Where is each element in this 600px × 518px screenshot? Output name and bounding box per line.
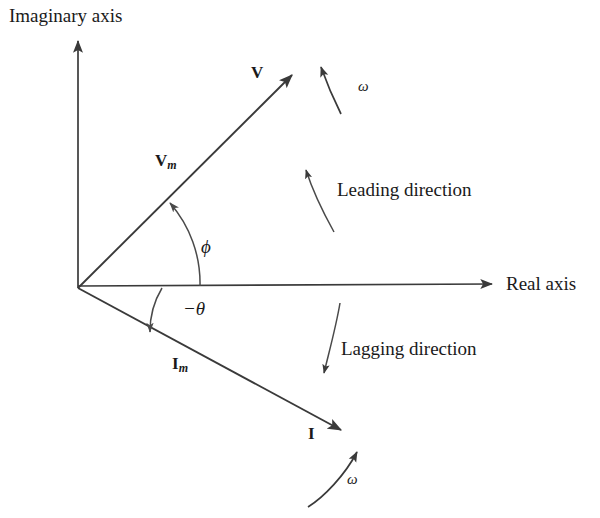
omega-bottom-label: ω [347, 472, 358, 487]
phi-angle-arc [170, 203, 200, 286]
negative-theta-angle-label: −θ [183, 299, 205, 318]
current-phasor-tip-label: I [308, 425, 315, 442]
voltage-phasor-line [78, 75, 292, 288]
voltage-magnitude-label: Vm [155, 152, 177, 171]
phi-angle-label: ϕ [201, 237, 211, 256]
imaginary-axis-label: Imaginary axis [9, 6, 122, 25]
phasor-diagram-canvas [0, 0, 600, 518]
omega-top-label: ω [358, 79, 369, 94]
voltage-magnitude-symbol: V [155, 151, 167, 170]
real-axis-label: Real axis [506, 274, 576, 293]
lagging-direction-label: Lagging direction [341, 339, 477, 358]
phasor-diagram: Imaginary axis Real axis V Vm I Im ϕ −θ … [0, 0, 600, 518]
current-magnitude-subscript: m [179, 361, 188, 375]
omega-top-arrow [321, 67, 341, 114]
leading-direction-label: Leading direction [337, 180, 472, 199]
lagging-direction-arrow [324, 303, 340, 373]
voltage-magnitude-subscript: m [167, 158, 176, 172]
negative-theta-angle-arc [150, 288, 162, 332]
current-magnitude-label: Im [172, 355, 188, 374]
current-phasor-line [78, 288, 341, 430]
current-magnitude-symbol: I [172, 354, 179, 373]
voltage-phasor-tip-label: V [251, 64, 263, 81]
real-axis-line [78, 284, 492, 286]
leading-direction-arrow [306, 170, 334, 232]
